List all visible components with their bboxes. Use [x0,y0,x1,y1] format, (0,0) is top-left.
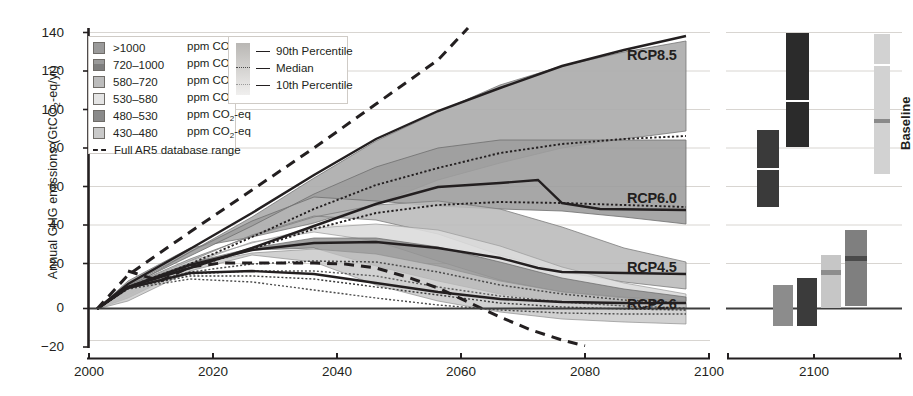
percentile10-dotted-sample-icon [236,84,250,85]
legend-unit-480-530: ppm CO2-eq [187,108,251,123]
percentile-gradient-swatch [236,43,250,95]
baseline-label: Baseline [898,97,913,150]
bar-480-530 [797,278,817,326]
bar-gt1000-lower [786,102,809,147]
bar-530-580 [821,255,841,308]
legend-label-430-480: 430–480 [113,127,187,139]
legend-item-full-ar5-range[interactable]: Full AR5 database range [93,142,241,157]
rcp-label-60: RCP6.0 [627,190,677,206]
x-tick-2100: 2100 [674,364,744,379]
legend-unit-430-480: ppm CO2-eq [187,125,251,140]
bar-gt1000-upper [786,33,809,100]
solid-line-icon [256,85,270,86]
legend-label-580-720: 580–720 [113,76,187,88]
right-x-tick-2100: 2100 [779,364,849,379]
bar-580-720 [845,230,867,306]
x-tick-2060: 2060 [426,364,496,379]
legend-label-530-580: 530–580 [113,93,187,105]
x-tick-2040: 2040 [302,364,372,379]
legend-item-480-530[interactable]: 480–530 ppm CO2-eq [93,108,251,123]
bar-720-1000-lower [757,170,779,207]
legend-item-median[interactable]: Median [256,62,314,74]
legend-label-480-530: 480–530 [113,110,187,122]
legend-label-full-ar5-range: Full AR5 database range [114,144,241,156]
legend-item-90th-percentile[interactable]: 90th Percentile [256,45,353,57]
x-tick-2080: 2080 [550,364,620,379]
bar-580-720-median [845,256,867,261]
rcp-label-85: RCP8.5 [627,47,677,63]
bar-baseline-median [874,119,890,123]
bar-530-580-median [821,270,841,275]
x-tickmarks [89,353,709,358]
bar-430-480 [773,285,793,326]
right-panel-bars [757,33,890,326]
bar-baseline-upper [874,34,890,64]
x-tick-2000: 2000 [54,364,124,379]
solid-line-icon [256,68,270,69]
dashed-line-icon [93,149,106,151]
rcp-label-26: RCP2.6 [627,296,677,312]
legend-item-10th-percentile[interactable]: 10th Percentile [256,79,353,91]
x-tick-2020: 2020 [178,364,248,379]
legend-label-10th-percentile: 10th Percentile [276,79,353,91]
legend-label-90th-percentile: 90th Percentile [276,45,353,57]
median-dotted-sample-icon [236,67,250,68]
legend-swatch-480-530 [93,110,105,122]
legend-item-430-480[interactable]: 430–480 ppm CO2-eq [93,125,251,140]
legend-swatch-720-1000 [93,59,105,71]
bar-720-1000-upper [757,130,779,168]
legend-swatch-gt1000 [93,42,105,54]
legend-label-median: Median [276,62,314,74]
legend-swatch-430-480 [93,127,105,139]
legend-label-720-1000: 720–1000 [113,59,187,71]
legend-swatch-530-580 [93,93,105,105]
rcp-label-45: RCP4.5 [627,259,677,275]
legend-swatch-580-720 [93,76,105,88]
solid-line-icon [256,51,270,52]
legend-label-gt1000: >1000 [113,42,187,54]
